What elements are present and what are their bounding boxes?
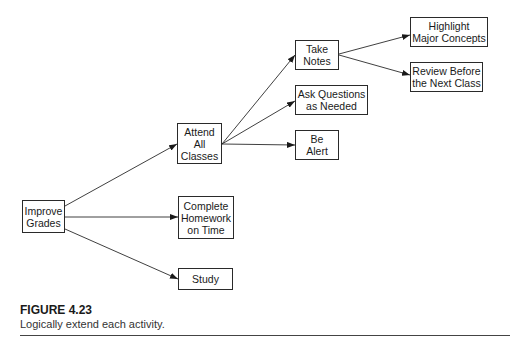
- figure-title: FIGURE 4.23: [20, 303, 92, 317]
- figure-caption: Logically extend each activity.: [20, 318, 165, 330]
- node-improve: Improve Grades: [22, 200, 65, 233]
- edge-attend-to-ask: [222, 101, 295, 144]
- edge-notes-to-highlight: [339, 35, 410, 54]
- node-highlight: Highlight Major Concepts: [410, 17, 488, 47]
- edge-attend-to-alert: [222, 144, 295, 145]
- edge-improve-to-attend: [65, 144, 177, 206]
- edge-improve-to-study: [65, 229, 178, 279]
- divider: [20, 335, 510, 336]
- edges-layer: [0, 0, 514, 344]
- edge-notes-to-review: [339, 55, 410, 75]
- node-study: Study: [178, 268, 233, 290]
- node-notes: Take Notes: [295, 40, 339, 70]
- node-review: Review Before the Next Class: [410, 62, 483, 92]
- edge-attend-to-notes: [222, 55, 295, 144]
- node-alert: Be Alert: [295, 130, 339, 160]
- node-homework: Complete Homework on Time: [178, 196, 234, 239]
- node-attend: Attend All Classes: [177, 123, 222, 164]
- node-ask: Ask Questions as Needed: [295, 85, 368, 115]
